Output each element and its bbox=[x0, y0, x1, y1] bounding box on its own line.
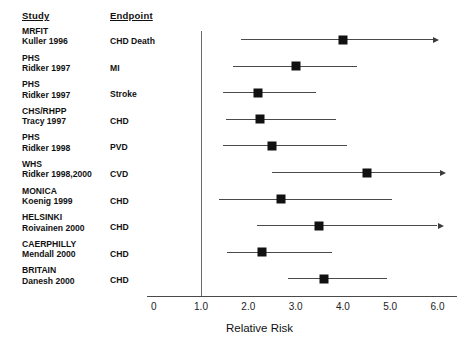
study-name: PHS bbox=[22, 53, 70, 63]
x-tick-label: 0 bbox=[151, 301, 157, 312]
null-reference-line bbox=[201, 31, 202, 296]
study-label: PHSRidker 1997 bbox=[22, 53, 70, 74]
endpoint-label: CHD bbox=[110, 196, 129, 206]
x-tick-label: 2.0 bbox=[241, 301, 255, 312]
study-author-year: Tracy 1997 bbox=[22, 116, 66, 126]
study-name: PHS bbox=[22, 79, 70, 89]
study-author-year: Ridker 1998,2000 bbox=[22, 169, 92, 179]
study-name: CHS/RHPP bbox=[22, 106, 66, 116]
endpoint-label: CVD bbox=[110, 169, 128, 179]
confidence-interval-line bbox=[288, 278, 388, 279]
confidence-interval-line bbox=[226, 119, 336, 120]
study-label: WHSRidker 1998,2000 bbox=[22, 159, 92, 180]
study-author-year: Ridker 1997 bbox=[22, 63, 70, 73]
forest-plot: Study Endpoint MRFITKuller 1996CHD Death… bbox=[0, 0, 464, 351]
endpoint-label: CHD bbox=[110, 249, 129, 259]
point-estimate-marker bbox=[319, 274, 328, 283]
column-header-study: Study bbox=[22, 10, 49, 21]
confidence-interval-line bbox=[223, 92, 317, 93]
point-estimate-marker bbox=[267, 141, 276, 150]
study-name: BRITAIN bbox=[22, 265, 75, 275]
x-tick-label: 3.0 bbox=[289, 301, 303, 312]
point-estimate-marker bbox=[258, 248, 267, 257]
endpoint-label: CHD bbox=[110, 275, 129, 285]
confidence-interval-line bbox=[227, 252, 332, 253]
study-author-year: Koenig 1999 bbox=[22, 196, 73, 206]
study-name: WHS bbox=[22, 159, 92, 169]
confidence-interval-line bbox=[272, 172, 440, 173]
point-estimate-marker bbox=[291, 62, 300, 71]
x-axis-title: Relative Risk bbox=[0, 322, 464, 334]
study-label: HELSINKIRoivainen 2000 bbox=[22, 212, 85, 233]
study-author-year: Ridker 1997 bbox=[22, 90, 70, 100]
study-name: CAERPHILLY bbox=[22, 239, 76, 249]
study-author-year: Roivainen 2000 bbox=[22, 223, 85, 233]
x-tick-label: 6.0 bbox=[431, 301, 445, 312]
study-label: PHSRidker 1997 bbox=[22, 79, 70, 100]
x-tick-label: 1.0 bbox=[194, 301, 208, 312]
point-estimate-marker bbox=[315, 221, 324, 230]
confidence-interval-line bbox=[257, 225, 437, 226]
point-estimate-marker bbox=[338, 35, 347, 44]
endpoint-label: PVD bbox=[110, 142, 128, 152]
study-label: MONICAKoenig 1999 bbox=[22, 186, 73, 207]
ci-arrow-icon bbox=[433, 37, 439, 43]
ci-arrow-icon bbox=[440, 170, 446, 176]
confidence-interval-line bbox=[219, 199, 392, 200]
point-estimate-marker bbox=[253, 88, 262, 97]
endpoint-label: CHD Death bbox=[110, 36, 155, 46]
point-estimate-marker bbox=[277, 195, 286, 204]
endpoint-label: CHD bbox=[110, 222, 129, 232]
x-axis-line bbox=[147, 296, 457, 297]
study-author-year: Ridker 1998 bbox=[22, 143, 70, 153]
study-label: MRFITKuller 1996 bbox=[22, 26, 68, 47]
study-name: HELSINKI bbox=[22, 212, 85, 222]
study-author-year: Danesh 2000 bbox=[22, 276, 75, 286]
study-label: BRITAINDanesh 2000 bbox=[22, 265, 75, 286]
study-label: PHSRidker 1998 bbox=[22, 132, 70, 153]
column-header-endpoint: Endpoint bbox=[110, 10, 153, 21]
endpoint-label: CHD bbox=[110, 116, 129, 126]
study-author-year: Kuller 1996 bbox=[22, 36, 68, 46]
confidence-interval-line bbox=[241, 39, 433, 40]
study-label: CAERPHILLYMendall 2000 bbox=[22, 239, 76, 260]
study-name: MRFIT bbox=[22, 26, 68, 36]
x-tick-label: 4.0 bbox=[336, 301, 350, 312]
study-author-year: Mendall 2000 bbox=[22, 249, 76, 259]
study-name: PHS bbox=[22, 132, 70, 142]
point-estimate-marker bbox=[362, 168, 371, 177]
confidence-interval-line bbox=[223, 145, 347, 146]
endpoint-label: MI bbox=[110, 63, 120, 73]
x-axis-title-text: Relative Risk bbox=[226, 322, 293, 334]
x-tick-label: 5.0 bbox=[383, 301, 397, 312]
study-label: CHS/RHPPTracy 1997 bbox=[22, 106, 66, 127]
study-name: MONICA bbox=[22, 186, 73, 196]
ci-arrow-icon bbox=[438, 223, 444, 229]
point-estimate-marker bbox=[256, 115, 265, 124]
endpoint-label: Stroke bbox=[110, 89, 137, 99]
